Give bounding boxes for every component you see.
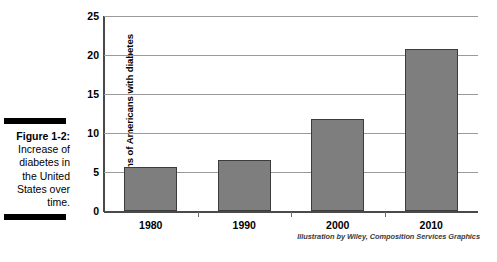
x-tick-label-1990: 1990 — [233, 219, 256, 231]
bar-2010 — [405, 49, 458, 211]
y-tick-label-10: 10 — [87, 127, 99, 139]
x-tick-label-2000: 2000 — [326, 219, 349, 231]
x-tick-label-2010: 2010 — [420, 219, 443, 231]
y-tick-label-15: 15 — [87, 88, 99, 100]
figure-container: Figure 1-2: Increase of diabetes in the … — [0, 0, 497, 262]
caption-rule-bottom — [4, 214, 66, 220]
figure-caption-label: Figure 1-2: — [16, 130, 70, 142]
y-tick-label-25: 25 — [87, 10, 99, 22]
bars — [104, 16, 478, 211]
bar-2000 — [311, 119, 364, 211]
bar-chart: Millions of Americans with diabetes 0510… — [76, 0, 497, 262]
caption-rule-top — [4, 118, 66, 124]
attribution-text: Illustration by Wiley, Composition Servi… — [76, 232, 480, 241]
y-tick-label-20: 20 — [87, 49, 99, 61]
x-tick-0 — [198, 212, 199, 217]
figure-caption-block: Figure 1-2: Increase of diabetes in the … — [4, 118, 70, 220]
x-tick-2 — [385, 212, 386, 217]
figure-caption-text: Figure 1-2: Increase of diabetes in the … — [4, 130, 70, 209]
bar-1980 — [124, 167, 177, 211]
plot-area: 0510152025 1980199020002010 — [104, 16, 478, 211]
y-tick-label-0: 0 — [93, 205, 99, 217]
x-tick-label-1980: 1980 — [139, 219, 162, 231]
bar-1990 — [218, 160, 271, 211]
y-tick-label-5: 5 — [93, 166, 99, 178]
x-tick-1 — [291, 212, 292, 217]
figure-caption-body: Increase of diabetes in the United State… — [17, 143, 70, 208]
